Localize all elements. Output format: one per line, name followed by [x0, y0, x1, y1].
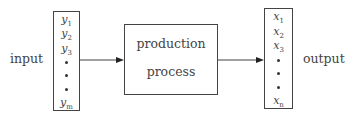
- arrow-process-to-output: [218, 57, 264, 63]
- flow-arrows: [0, 0, 348, 116]
- arrow-input-to-process: [80, 57, 124, 63]
